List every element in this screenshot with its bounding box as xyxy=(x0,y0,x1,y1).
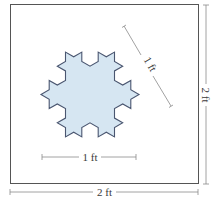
koch-snowflake xyxy=(41,52,139,137)
diagram-canvas: 1 ft 1 ft 2 ft 2 ft xyxy=(0,0,216,202)
square-height-label: 2 ft xyxy=(200,88,212,103)
square-width-label: 2 ft xyxy=(97,186,112,198)
snowflake-width-label: 1 ft xyxy=(83,151,98,163)
snowflake-side-label: 1 ft xyxy=(142,55,160,74)
